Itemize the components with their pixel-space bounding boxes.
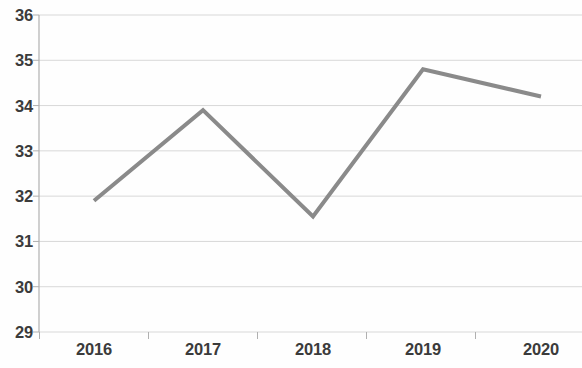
line-chart: 2930313233343536 20162017201820192020: [0, 0, 582, 368]
y-axis-tick-label: 35: [1, 52, 33, 69]
x-axis-tick-label: 2019: [383, 341, 463, 358]
x-axis-tick-label: 2017: [163, 341, 243, 358]
y-axis-tick-label: 31: [1, 233, 33, 250]
x-axis-ticks: [40, 332, 476, 339]
y-axis-tick-label: 34: [1, 98, 33, 115]
y-axis-tick-label: 30: [1, 279, 33, 296]
y-axis-tick-label: 32: [1, 188, 33, 205]
y-axis-tick-label: 36: [1, 7, 33, 24]
data-line: [94, 69, 541, 216]
chart-plot-area: [0, 0, 582, 368]
y-axis-tick-label: 33: [1, 143, 33, 160]
data-line-series: [94, 69, 541, 216]
x-axis-tick-label: 2020: [501, 341, 581, 358]
x-axis-tick-label: 2016: [54, 341, 134, 358]
y-axis-tick-label: 29: [1, 324, 33, 341]
gridlines: [33, 15, 582, 332]
x-axis-tick-label: 2018: [273, 341, 353, 358]
